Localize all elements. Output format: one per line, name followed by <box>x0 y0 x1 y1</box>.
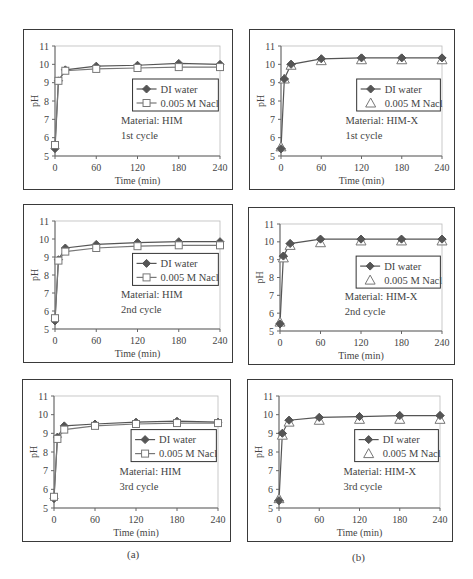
legend-label: 0.005 M Nacl <box>161 272 219 283</box>
y-tick-label: 7 <box>268 465 273 476</box>
data-point <box>134 65 141 72</box>
data-point <box>54 435 61 442</box>
legend: DI water0.005 M Nacl <box>355 430 441 462</box>
y-tick-label: 8 <box>269 272 274 283</box>
x-axis-title: Time (min) <box>338 350 383 362</box>
data-point <box>215 420 222 427</box>
x-tick-label: 0 <box>53 162 58 173</box>
legend: DI water0.005 M Nacl <box>133 253 219 285</box>
x-tick-label: 0 <box>52 514 57 525</box>
y-tick-label: 8 <box>44 270 49 281</box>
y-tick-label: 8 <box>268 447 273 458</box>
legend-label: DI water <box>383 434 421 445</box>
x-tick-label: 180 <box>394 162 409 173</box>
y-tick-label: 11 <box>263 391 273 402</box>
x-tick-label: 180 <box>171 162 186 173</box>
y-tick-label: 11 <box>39 216 49 227</box>
x-tick-label: 120 <box>354 162 369 173</box>
y-tick-label: 7 <box>43 465 48 476</box>
x-tick-label: 60 <box>90 514 100 525</box>
x-tick-label: 240 <box>211 514 226 525</box>
x-axis-title: Time (min) <box>337 527 382 539</box>
legend-label: DI water <box>385 84 423 95</box>
x-tick-label: 240 <box>435 337 450 348</box>
y-tick-label: 5 <box>268 503 273 514</box>
data-point <box>175 64 182 71</box>
x-tick-label: 120 <box>130 162 145 173</box>
y-axis-title: pH <box>254 271 265 283</box>
data-point <box>61 426 68 433</box>
x-tick-label: 240 <box>433 514 448 525</box>
y-tick-label: 9 <box>44 77 49 88</box>
x-tick-label: 180 <box>170 514 185 525</box>
y-tick-label: 5 <box>269 326 274 337</box>
y-tick-label: 10 <box>39 234 49 245</box>
y-tick-label: 8 <box>270 96 275 107</box>
legend: DI water0.005 M Nacl <box>133 79 219 111</box>
annotation-text: 2nd cycle <box>345 306 386 317</box>
y-tick-label: 11 <box>265 41 275 52</box>
x-tick-label: 0 <box>277 514 282 525</box>
x-tick-label: 60 <box>91 335 101 346</box>
y-tick-label: 6 <box>44 132 49 143</box>
y-tick-label: 5 <box>44 324 49 335</box>
annotation-text: Material: HIM <box>121 115 183 126</box>
y-tick-label: 11 <box>264 219 274 230</box>
x-tick-label: 0 <box>278 337 283 348</box>
y-tick-label: 7 <box>44 114 49 125</box>
data-point <box>62 248 69 255</box>
y-tick-label: 10 <box>39 59 49 70</box>
y-tick-label: 7 <box>44 288 49 299</box>
x-axis-title: Time (min) <box>113 527 158 539</box>
y-tick-label: 6 <box>269 308 274 319</box>
data-point <box>55 257 62 264</box>
data-point <box>93 245 100 252</box>
y-axis-title: pH <box>253 446 264 458</box>
x-tick-label: 0 <box>279 162 284 173</box>
data-point <box>175 242 182 249</box>
y-tick-label: 8 <box>43 447 48 458</box>
legend-label: 0.005 M Nacl <box>161 98 219 109</box>
data-point <box>133 421 140 428</box>
annotation-text: 3rd cycle <box>343 481 382 492</box>
data-point <box>134 243 141 250</box>
y-tick-label: 10 <box>264 236 274 247</box>
y-tick-label: 9 <box>270 77 275 88</box>
x-tick-label: 180 <box>171 335 186 346</box>
x-tick-label: 120 <box>129 514 144 525</box>
y-tick-label: 6 <box>270 132 275 143</box>
data-point <box>174 420 181 427</box>
annotation-text: Material: HIM <box>121 289 183 300</box>
annotation-text: 2nd cycle <box>121 304 162 315</box>
y-tick-label: 9 <box>269 254 274 265</box>
x-tick-label: 240 <box>435 162 450 173</box>
chart-panel-a2: 567891011060120180240Time (min)pHDI wate… <box>23 204 233 363</box>
y-tick-label: 7 <box>269 290 274 301</box>
x-tick-label: 240 <box>213 162 228 173</box>
y-tick-label: 9 <box>44 252 49 263</box>
y-tick-label: 9 <box>43 428 48 439</box>
annotation-text: Material: HIM-X <box>345 291 418 302</box>
data-point <box>93 65 100 72</box>
legend-label: 0.005 M Nacl <box>384 275 442 286</box>
sub-label-b: (b) <box>352 551 365 563</box>
y-tick-label: 7 <box>270 114 275 125</box>
x-tick-label: 60 <box>316 162 326 173</box>
legend-marker <box>143 100 150 107</box>
legend-marker <box>143 274 150 281</box>
y-axis-title: pH <box>29 269 40 281</box>
y-tick-label: 10 <box>265 59 275 70</box>
legend-label: 0.005 M Nacl <box>385 98 443 109</box>
chart-panel-a1: 567891011060120180240Time (min)pHDI wate… <box>23 29 233 190</box>
y-axis-title: pH <box>28 446 39 458</box>
data-point <box>217 242 224 249</box>
legend-label: DI water <box>159 434 197 445</box>
data-point <box>62 67 69 74</box>
data-point <box>276 320 284 328</box>
x-tick-label: 120 <box>352 514 367 525</box>
sub-label-a: (a) <box>127 548 139 560</box>
x-tick-label: 240 <box>213 335 228 346</box>
y-tick-label: 5 <box>44 151 49 162</box>
y-tick-label: 9 <box>268 428 273 439</box>
x-axis-title: Time (min) <box>339 175 384 187</box>
